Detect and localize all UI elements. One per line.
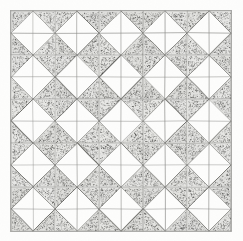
grid-line xyxy=(11,143,231,144)
grid-line xyxy=(11,99,231,100)
quilt-pattern-figure: Pinwheel half-square-triangle quilt patt… xyxy=(0,0,243,241)
pinwheel-pattern-svg xyxy=(0,0,243,241)
grid-line xyxy=(11,77,231,78)
